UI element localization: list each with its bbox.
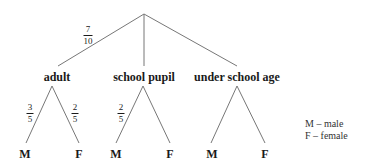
denominator: 10 [84, 37, 93, 46]
prob-adult-female: 2 5 [72, 103, 79, 124]
numerator: 7 [86, 25, 91, 34]
node-adult: adult [44, 70, 71, 85]
prob-pupil-male: 2 5 [118, 103, 125, 124]
leaf-pupil-female: F [166, 147, 173, 162]
leaf-under-age-female: F [261, 147, 268, 162]
numerator: 2 [73, 103, 78, 112]
leaf-under-age-male: M [206, 147, 217, 162]
prob-adult: 7 10 [84, 25, 93, 46]
legend-male: M – male [305, 118, 348, 130]
legend: M – male F – female [305, 118, 348, 142]
node-under-school-age: under school age [194, 70, 280, 85]
numerator: 2 [119, 103, 124, 112]
denominator: 5 [73, 115, 78, 124]
numerator: 3 [28, 103, 33, 112]
node-school-pupil: school pupil [113, 70, 175, 85]
leaf-adult-female: F [75, 147, 82, 162]
leaf-pupil-male: M [110, 147, 121, 162]
denominator: 5 [28, 115, 33, 124]
legend-female: F – female [305, 130, 348, 142]
leaf-adult-male: M [19, 147, 30, 162]
prob-adult-male: 3 5 [27, 103, 34, 124]
denominator: 5 [119, 115, 124, 124]
